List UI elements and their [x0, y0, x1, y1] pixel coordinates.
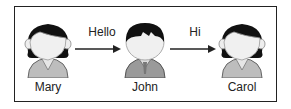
node-label-john: John: [115, 80, 175, 94]
node-label-mary: Mary: [18, 80, 78, 94]
edge-label-hi: Hi: [170, 25, 220, 39]
arrow-mary-to-john: [75, 44, 121, 54]
node-label-carol: Carol: [212, 80, 272, 94]
arrow-john-to-carol: [170, 44, 216, 54]
female-person-icon: [20, 18, 76, 78]
edge-label-hello: Hello: [77, 25, 127, 39]
female-person-icon: [214, 18, 270, 78]
